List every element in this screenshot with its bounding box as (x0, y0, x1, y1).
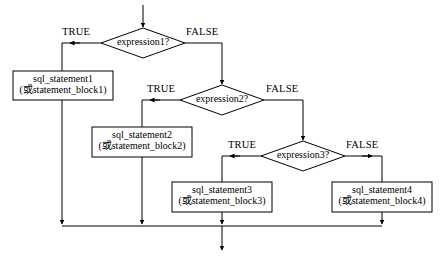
process-label-1-line1: sql_statement1 (13, 74, 113, 85)
process-label-1-line2: (或statement_block1) (13, 85, 113, 96)
process-label-2-line1: sql_statement2 (92, 130, 192, 141)
edge-d1-false (185, 43, 222, 84)
edge-d2-false (264, 100, 303, 140)
edge-d3-true (222, 156, 261, 182)
edge-d2-true (142, 100, 180, 127)
process-label-1: sql_statement1 (或statement_block1) (13, 74, 113, 95)
branch-label-d2-true: TRUE (147, 83, 175, 94)
process-label-4-line1: sql_statement4 (332, 185, 432, 196)
process-label-2-line2: (或statement_block2) (92, 141, 192, 152)
process-label-2: sql_statement2 (或statement_block2) (92, 130, 192, 151)
branch-label-d3-true: TRUE (228, 139, 256, 150)
process-label-3-line1: sql_statement3 (172, 185, 272, 196)
decision-label-1: expression1? (101, 37, 185, 48)
edge-d3-false (345, 156, 382, 182)
decision-label-2: expression2? (180, 94, 264, 105)
branch-label-d1-false: FALSE (186, 26, 218, 37)
branch-label-d2-false: FALSE (266, 83, 298, 94)
flowchart-graphics (0, 0, 446, 258)
process-label-4: sql_statement4 (或statement_block4) (332, 185, 432, 206)
process-label-3-line2: (或statement_block3) (172, 196, 272, 207)
decision-label-3: expression3? (261, 150, 345, 161)
branch-label-d1-true: TRUE (62, 26, 90, 37)
edge-d1-true (62, 43, 101, 71)
branch-label-d3-false: FALSE (346, 139, 378, 150)
process-label-3: sql_statement3 (或statement_block3) (172, 185, 272, 206)
flowchart-canvas: expression1? expression2? expression3? T… (0, 0, 446, 258)
process-label-4-line2: (或statement_block4) (332, 196, 432, 207)
